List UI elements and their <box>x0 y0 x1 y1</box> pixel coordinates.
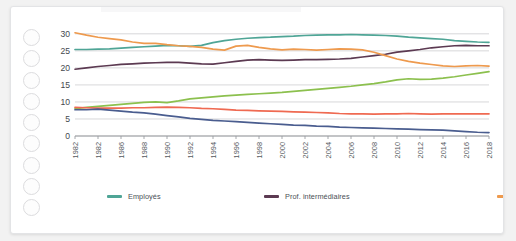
x-axis-tick-label: 1990 <box>163 142 172 158</box>
x-axis-tick-label: 2012 <box>416 142 425 158</box>
screenshot-root: 0510152025301982198219861988199019921994… <box>0 0 516 241</box>
x-axis-tick-label: 1982 <box>94 142 103 158</box>
series-line-cadres-sup-rieurs <box>75 72 489 109</box>
x-axis-tick-label: 2008 <box>370 142 379 158</box>
punch-hole <box>23 135 40 152</box>
top-cutoff-strip <box>101 7 301 12</box>
y-axis-tick-label: 25 <box>60 46 70 56</box>
legend-item[interactable]: Employés <box>107 191 264 202</box>
punch-hole <box>23 178 40 195</box>
legend-color-swatch <box>264 195 279 198</box>
punch-hole <box>23 199 40 216</box>
x-axis-tick-label: 2010 <box>393 142 402 158</box>
punch-hole-column <box>23 29 49 219</box>
punch-hole <box>23 29 40 46</box>
x-axis-tick-label: 2004 <box>324 142 333 158</box>
legend-label: Employés <box>128 192 161 201</box>
x-axis-tick-label: 2006 <box>347 142 356 158</box>
y-axis-tick-label: 10 <box>60 97 70 107</box>
x-axis-tick-label: 2014 <box>439 142 448 158</box>
punch-hole <box>23 93 40 110</box>
legend-item[interactable]: Prof. intermédiaires <box>264 191 497 202</box>
x-axis-tick-label: 1998 <box>255 142 264 158</box>
legend-color-swatch <box>497 195 504 198</box>
y-axis-tick-label: 5 <box>65 114 70 124</box>
punch-hole <box>23 72 40 89</box>
x-axis-tick-label: 1988 <box>140 142 149 158</box>
legend-label: Prof. intermédiaires <box>285 192 350 201</box>
x-axis-tick-label: 1996 <box>232 142 241 158</box>
legend-item[interactable]: Ouvriers <box>497 191 504 202</box>
y-axis-tick-label: 30 <box>60 29 70 39</box>
x-axis-tick-label: 1994 <box>209 142 218 158</box>
y-axis-tick-label: 15 <box>60 80 70 90</box>
legend-color-swatch <box>107 195 122 198</box>
x-axis-tick-label: 1992 <box>186 142 195 158</box>
punch-hole <box>23 114 40 131</box>
series-line-agriculteur-exploitant <box>75 109 489 133</box>
chart-plot-area: 0510152025301982198219861988199019921994… <box>55 21 495 166</box>
x-axis-tick-label: 2018 <box>485 142 494 158</box>
y-axis-tick-label: 20 <box>60 63 70 73</box>
line-chart: 0510152025301982198219861988199019921994… <box>55 21 495 166</box>
punch-hole <box>23 157 40 174</box>
y-axis-tick-label: 0 <box>65 131 70 141</box>
chart-card: 0510152025301982198219861988199019921994… <box>10 6 504 234</box>
x-axis-tick-label: 1982 <box>71 142 80 158</box>
punch-hole <box>23 50 40 67</box>
chart-legend: EmployésProf. intermédiairesOuvriersCadr… <box>107 191 497 225</box>
x-axis-tick-label: 1986 <box>117 142 126 158</box>
x-axis-tick-label: 2002 <box>301 142 310 158</box>
x-axis-tick-label: 2016 <box>462 142 471 158</box>
x-axis-tick-label: 2000 <box>278 142 287 158</box>
